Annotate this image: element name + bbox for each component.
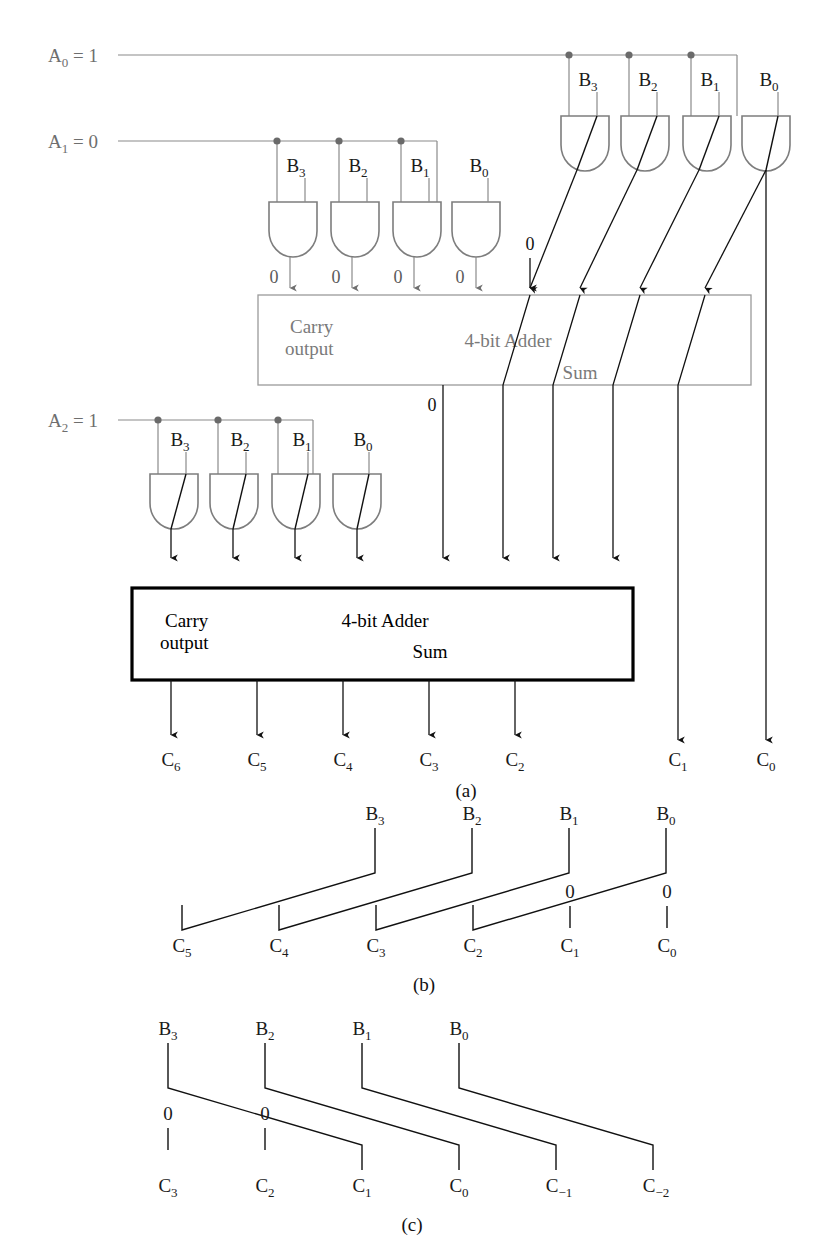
- top-adder-carry-label-1: Carry: [290, 316, 334, 337]
- panel-c-constant-0-c2: 0: [260, 1103, 270, 1124]
- and-gate-body: [272, 474, 320, 529]
- top-adder-sum-label: Sum: [563, 362, 598, 383]
- and-gate-body: [150, 474, 198, 529]
- output-value-0: 0: [456, 267, 465, 287]
- panel-c-constant-0-c3: 0: [163, 1103, 173, 1124]
- top-adder-title: 4-bit Adder: [464, 330, 552, 351]
- and-gate-body: [333, 474, 381, 529]
- junction-dot: [687, 51, 694, 58]
- bottom-adder-carry-label-1: Carry: [165, 610, 209, 631]
- caption-a: (a): [455, 780, 476, 802]
- top-adder-carry-label-2: output: [285, 338, 334, 359]
- output-value-0: 0: [394, 267, 403, 287]
- junction-dot: [625, 51, 632, 58]
- junction-dot: [274, 416, 281, 423]
- and-gate-body: [269, 202, 317, 257]
- bottom-adder-carry-label-2: output: [160, 632, 209, 653]
- carry-in-value: 0: [526, 234, 535, 254]
- panel-b-constant-0-c0: 0: [662, 881, 672, 902]
- junction-dot: [273, 137, 280, 144]
- and-gate-body: [683, 116, 731, 171]
- multiplier-figure: A0 = 1 B3 B2: [0, 0, 828, 1257]
- and-gate-body: [452, 202, 500, 257]
- junction-dot: [565, 51, 572, 58]
- and-gate-body: [331, 202, 379, 257]
- bottom-adder-title: 4-bit Adder: [341, 610, 429, 631]
- bottom-adder-sum-label: Sum: [413, 641, 448, 662]
- panel-b-constant-0-c1: 0: [565, 881, 575, 902]
- junction-dot: [335, 137, 342, 144]
- and-gate-body: [621, 116, 669, 171]
- output-value-0: 0: [270, 267, 279, 287]
- top-adder-carry-out-value: 0: [428, 395, 437, 415]
- caption-b: (b): [413, 974, 435, 996]
- and-gate-body: [393, 202, 441, 257]
- and-gate-body: [210, 474, 258, 529]
- junction-dot: [154, 416, 161, 423]
- junction-dot: [214, 416, 221, 423]
- and-gate-body: [561, 116, 609, 171]
- caption-c: (c): [401, 1214, 422, 1236]
- output-value-0: 0: [332, 267, 341, 287]
- and-gate-body: [742, 116, 790, 171]
- junction-dot: [397, 137, 404, 144]
